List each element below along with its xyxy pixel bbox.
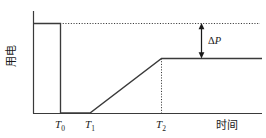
power-usage-step-chart: ΔP T0 T1 T2 时间 用电 [0, 0, 266, 138]
delta-p-label: ΔP [208, 35, 222, 46]
chart-background [0, 0, 266, 138]
x-axis-label: 时间 [216, 119, 238, 131]
delta-p-variable-text: P [214, 35, 222, 46]
figure-container: ΔP T0 T1 T2 时间 用电 [0, 0, 266, 138]
tick-label-t2-sub: 2 [162, 124, 166, 133]
y-axis-label: 用电 [5, 45, 17, 67]
tick-label-t1-sub: 1 [91, 124, 95, 133]
tick-label-t0-sub: 0 [61, 124, 65, 133]
